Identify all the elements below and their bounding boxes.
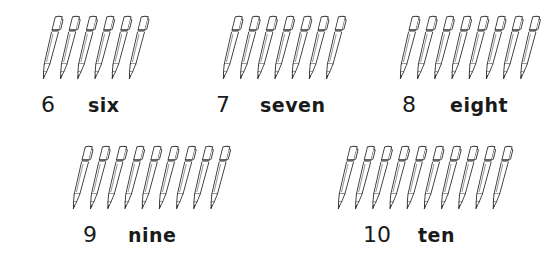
word-ten: ten bbox=[418, 226, 455, 245]
pen-icon bbox=[40, 16, 64, 79]
pen-icon bbox=[220, 16, 244, 79]
pen-icon bbox=[70, 146, 94, 209]
word-eight: eight bbox=[450, 96, 508, 115]
pen-icon bbox=[397, 16, 421, 79]
word-six: six bbox=[88, 96, 120, 115]
numeral-eight: 8 bbox=[402, 94, 416, 116]
pen-group-seven bbox=[210, 15, 351, 81]
pen-group-six bbox=[30, 15, 154, 81]
pen-group-ten bbox=[325, 145, 517, 211]
word-seven: seven bbox=[260, 96, 326, 115]
word-nine: nine bbox=[128, 226, 176, 245]
numeral-nine: 9 bbox=[83, 224, 97, 246]
pen-group-nine bbox=[60, 145, 235, 211]
pen-icon bbox=[335, 146, 359, 209]
numeral-six: 6 bbox=[41, 94, 55, 116]
pen-group-eight bbox=[387, 15, 545, 81]
numeral-ten: 10 bbox=[363, 224, 391, 246]
numeral-seven: 7 bbox=[216, 94, 230, 116]
